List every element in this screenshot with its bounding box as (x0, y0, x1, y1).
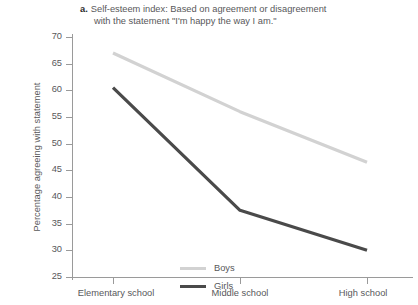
y-axis-tick-label: 50 (52, 138, 62, 148)
caption-line-1: Self-esteem index: Based on agreement or… (91, 4, 327, 14)
y-axis-title: Percentage agreeing with statement (32, 42, 42, 272)
y-axis-tick-label: 40 (52, 191, 62, 201)
chart-figure: a.Self-esteem index: Based on agreement … (0, 0, 418, 305)
legend-swatch-icon (180, 285, 206, 288)
plot-area: 70656055504540353025 Elementary schoolMi… (72, 37, 412, 277)
y-axis-tick-label: 70 (52, 31, 62, 41)
y-axis-tick-label: 30 (52, 244, 62, 254)
x-axis-tick (367, 278, 368, 284)
x-axis-tick (113, 278, 114, 284)
caption-line-2: with the statement "I'm happy the way I … (94, 15, 410, 27)
y-axis-tick-label: 35 (52, 218, 62, 228)
y-axis-tick-label: 55 (52, 111, 62, 121)
legend-item-boys: Boys (180, 259, 300, 277)
chart-legend: BoysGirls (180, 259, 300, 295)
series-lines (72, 37, 412, 277)
y-axis-tick-label: 45 (52, 164, 62, 174)
x-axis-tick-label: Elementary school (78, 288, 154, 298)
x-axis-tick-label: High school (339, 288, 388, 298)
y-axis-tick-label: 60 (52, 84, 62, 94)
y-axis-tick-label: 65 (52, 58, 62, 68)
legend-item-girls: Girls (180, 277, 300, 295)
legend-label: Boys (214, 263, 235, 273)
chart-caption: a.Self-esteem index: Based on agreement … (80, 3, 410, 28)
y-axis-tick-label: 25 (52, 271, 62, 281)
caption-marker: a. (80, 4, 88, 14)
legend-swatch-icon (180, 267, 206, 270)
legend-label: Girls (214, 281, 233, 291)
line-series-boys (113, 53, 367, 162)
y-axis-tick: 25 (66, 277, 72, 278)
